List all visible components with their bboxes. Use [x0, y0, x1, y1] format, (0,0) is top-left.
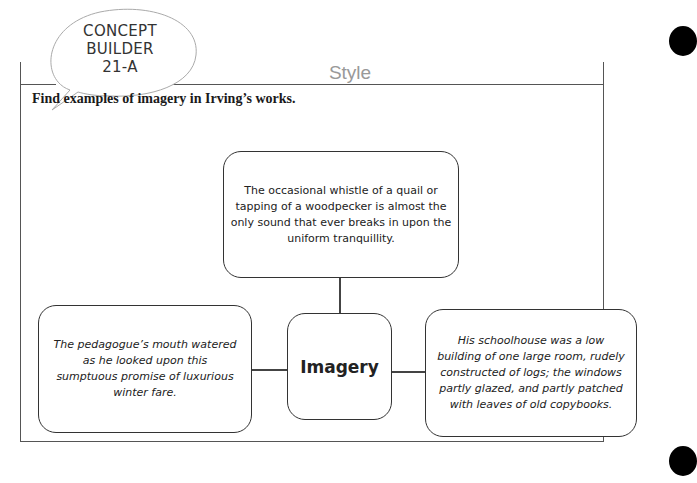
top-example-text: The occasional whistle of a quail or tap… [230, 183, 452, 247]
section-title: Style [300, 62, 400, 84]
concept-builder-badge: CONCEPT BUILDER 21-A [55, 22, 185, 76]
center-concept-box: Imagery [287, 313, 392, 420]
badge-line-1: CONCEPT [55, 22, 185, 40]
binder-hole-bottom-icon [669, 446, 697, 476]
right-example-box: His schoolhouse was a low building of on… [425, 309, 637, 437]
center-concept-label: Imagery [300, 357, 379, 377]
top-example-box: The occasional whistle of a quail or tap… [223, 151, 459, 278]
connector-vertical [339, 278, 341, 313]
left-example-box: The pedagogue’s mouth watered as he look… [38, 305, 252, 433]
badge-line-3: 21-A [55, 58, 185, 76]
left-example-text: The pedagogue’s mouth watered as he look… [53, 337, 237, 401]
connector-right [392, 371, 425, 373]
frame-top-border-right [168, 84, 604, 85]
badge-line-2: BUILDER [55, 40, 185, 58]
connector-left [252, 369, 287, 371]
right-example-text: His schoolhouse was a low building of on… [436, 333, 626, 413]
binder-hole-top-icon [669, 26, 697, 56]
instruction-text: Find examples of imagery in Irving’s wor… [32, 91, 296, 107]
